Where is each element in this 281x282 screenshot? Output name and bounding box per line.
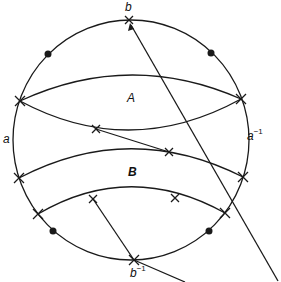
label-a-inverse: a−1 bbox=[247, 130, 263, 142]
long-arrow-line bbox=[131, 25, 278, 281]
label-a: a bbox=[3, 133, 10, 145]
label-b-inverse-base: b bbox=[130, 266, 137, 280]
cross-marker-175 bbox=[171, 194, 179, 202]
label-b-inverse-exp: −1 bbox=[137, 264, 146, 273]
disk-diagram bbox=[0, 0, 281, 282]
label-a-inverse-base: a bbox=[247, 129, 254, 143]
label-region-A: A bbox=[127, 92, 135, 104]
label-a-inverse-exp: −1 bbox=[254, 127, 263, 136]
label-region-B: B bbox=[128, 166, 137, 178]
edge-93-134 bbox=[93, 199, 134, 260]
arc-lower bbox=[38, 187, 225, 214]
dot-bottom-left bbox=[50, 228, 57, 235]
diagram: b a a−1 A B b−1 bbox=[0, 0, 281, 282]
cross-marker-lower-left bbox=[33, 209, 43, 219]
label-b: b bbox=[125, 1, 132, 13]
label-b-inverse: b−1 bbox=[130, 267, 146, 279]
cross-marker-96 bbox=[92, 125, 100, 133]
cross-marker-b-left bbox=[14, 173, 24, 183]
cross-marker-93 bbox=[89, 195, 97, 203]
cross-marker-lower-right bbox=[220, 208, 230, 218]
dot-top-right bbox=[208, 50, 215, 57]
dot-bottom-right bbox=[206, 228, 213, 235]
dot-top-left bbox=[45, 51, 52, 58]
cross-marker-b-right bbox=[238, 172, 248, 182]
